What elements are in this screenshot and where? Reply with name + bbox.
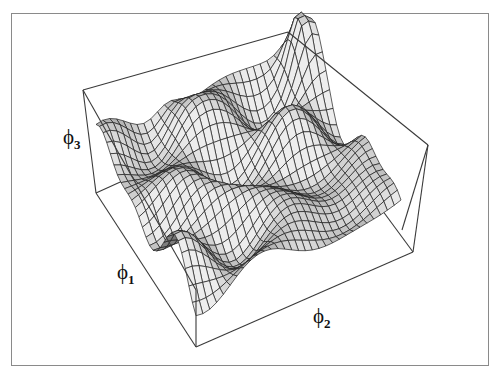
axis-symbol: ϕ — [63, 125, 74, 149]
axis-symbol: ϕ — [313, 304, 324, 328]
axis-label-phi2: ϕ2 — [313, 306, 331, 330]
axis-label-phi3: ϕ3 — [63, 127, 81, 151]
axis-subscript: 1 — [128, 272, 135, 287]
axis-symbol: ϕ — [117, 260, 128, 284]
axis-label-phi1: ϕ1 — [117, 262, 135, 286]
axis-subscript: 3 — [74, 137, 81, 152]
surface-mesh — [96, 12, 401, 316]
surface-plot — [0, 0, 498, 379]
axis-subscript: 2 — [324, 316, 331, 331]
